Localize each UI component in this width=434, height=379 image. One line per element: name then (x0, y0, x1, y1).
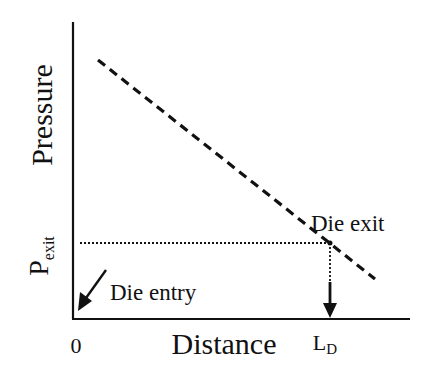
pressure-line (98, 60, 375, 279)
svg-text:Pexit: Pexit (23, 236, 57, 276)
arrow-diagonal-icon (78, 270, 106, 311)
ld-tick-label: LD (313, 330, 337, 357)
pexit-tick-label: Pexit (23, 236, 57, 276)
x-axis-label: Distance (172, 327, 277, 360)
y-axis-label: Pressure (25, 64, 58, 166)
die-entry-label: Die entry (110, 280, 197, 305)
pressure-distance-diagram: Pressure Pexit Distance 0 LD Die exit Di… (0, 0, 434, 379)
arrow-down-icon (323, 282, 337, 318)
origin-tick-label: 0 (71, 333, 82, 358)
die-exit-label: Die exit (311, 211, 385, 236)
